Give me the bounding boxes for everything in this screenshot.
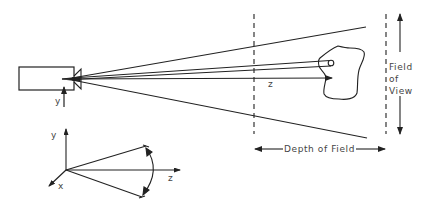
- frame-x-label: x: [58, 181, 64, 191]
- cone-bottom-edge: [72, 80, 367, 138]
- frame-cone-bottom: [66, 170, 142, 197]
- frame-z-label: z: [168, 173, 173, 183]
- view-cone: [72, 27, 367, 138]
- camera-y-label: y: [55, 96, 61, 106]
- frame-y-label: y: [51, 130, 57, 140]
- frame-arc-arrow-top: [146, 148, 152, 156]
- camera-field-of-view-diagram: z Field of View Depth of Field y y z x: [0, 0, 429, 206]
- coordinate-frame: [49, 129, 180, 198]
- z-axis-label: z: [268, 79, 273, 89]
- object-blob: [318, 46, 364, 99]
- fov-label-of: of: [389, 74, 399, 84]
- fov-label-view: View: [389, 86, 413, 96]
- ray-end-circle: [328, 60, 334, 66]
- frame-cone-top: [66, 146, 146, 170]
- sight-ray-tube: [72, 60, 334, 79]
- dof-label: Depth of Field: [284, 144, 355, 154]
- fov-label-field: Field: [389, 62, 413, 72]
